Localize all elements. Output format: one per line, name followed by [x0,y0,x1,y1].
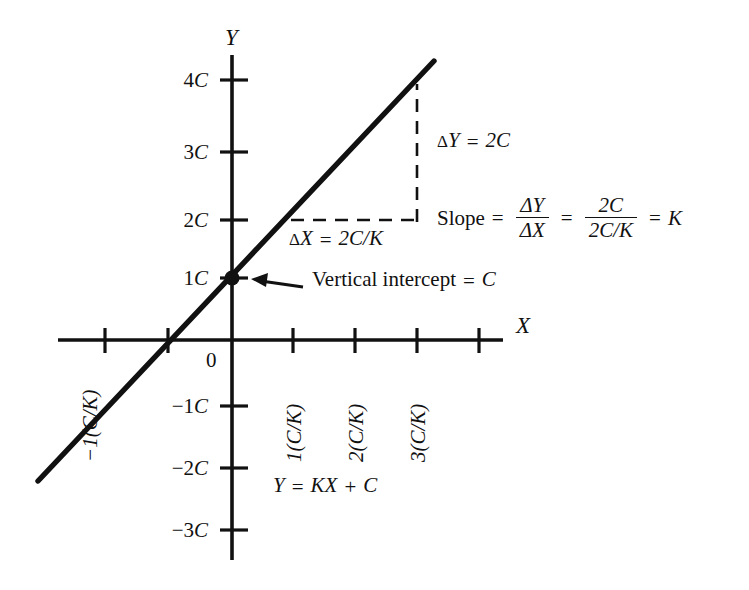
x-axis-label: X [516,314,530,337]
slope-equals-1: = [492,208,504,229]
vertical-intercept-equals: = [463,271,475,292]
y-tick-label-4c: 4C [164,70,208,91]
slope-frac1-denominator: ΔX [516,218,549,241]
y-tick-label-neg2c: −2C [148,458,208,479]
slope-frac2-denominator: 2C/K [585,218,637,241]
delta-y-variable: Y [448,128,460,152]
vertical-intercept-value: C [482,267,496,291]
slope-fraction-delta: ΔYΔX [516,195,549,241]
vertical-intercept-text: Vertical intercept [312,267,456,291]
delta-x-variable: X [300,226,313,250]
slope-result: K [668,208,682,229]
coordinate-plot [0,0,749,590]
intercept-arrow [251,273,303,287]
equation-equals: = [292,477,304,498]
y-tick-2c-text: 2C [183,208,208,232]
slope-equals-3: = [649,208,661,229]
equation-kx-term: KX [311,473,338,497]
delta-x-delta-symbol: Δ [289,230,300,249]
line-equation: Y=KX+C [273,475,377,498]
vertical-intercept-marker [225,271,240,286]
y-tick-label-2c: 2C [164,210,208,231]
slope-formula: Slope=ΔYΔX=2C2C/K=K [437,195,682,241]
y-tick-neg3c-text: −3C [172,518,208,542]
delta-y-equals: = [467,132,479,153]
x-tick-label-neg1ck: −1(C/K) [80,389,101,462]
y-tick-label-1c: 1C [164,268,208,289]
graph-figure: Y X 0 4C 3C 2C 1C −1C −2C −3C −1(C/K) 1(… [0,0,749,590]
equation-lhs: Y [273,473,285,497]
delta-y-annotation: ΔY=2C [437,130,510,153]
y-axis-ticks [220,80,248,530]
slope-equals-2: = [561,208,573,229]
vertical-intercept-annotation: Vertical intercept=C [312,269,496,292]
x-tick-label-1ck: 1(C/K) [284,404,305,462]
y-tick-4c-text: 4C [183,68,208,92]
equation-c-term: C [363,473,377,497]
slope-word: Slope [437,208,485,229]
slope-fraction-values: 2C2C/K [585,195,637,241]
origin-label: 0 [206,350,217,371]
slope-frac1-numerator: ΔY [516,195,549,218]
delta-y-delta-symbol: Δ [437,132,448,151]
slope-frac2-numerator: 2C [585,195,637,218]
x-tick-label-3ck: 3(C/K) [408,404,429,462]
y-tick-3c-text: 3C [183,140,208,164]
delta-x-annotation: ΔX=2C/K [289,228,383,251]
y-tick-neg1c-text: −1C [172,394,208,418]
y-tick-label-3c: 3C [164,142,208,163]
delta-y-value: 2C [485,128,510,152]
equation-plus: + [344,477,356,498]
y-tick-label-neg3c: −3C [148,520,208,541]
delta-x-value: 2C/K [339,226,383,250]
x-tick-label-2ck: 2(C/K) [346,404,367,462]
delta-x-equals: = [320,230,332,251]
y-axis-label: Y [225,26,238,49]
y-tick-label-neg1c: −1C [148,396,208,417]
y-tick-neg2c-text: −2C [172,456,208,480]
y-tick-1c-text: 1C [183,266,208,290]
